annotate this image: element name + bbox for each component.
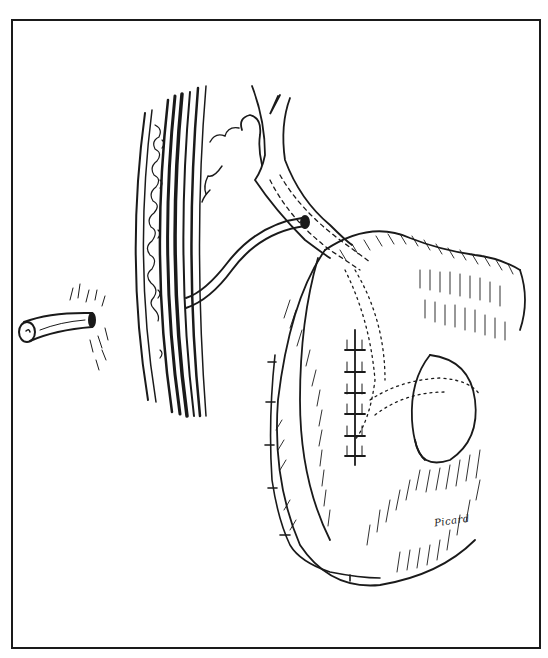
abdominal-wall <box>136 86 206 416</box>
bile-duct <box>202 86 370 270</box>
bowel-loop <box>277 231 525 585</box>
outer-suture-line <box>265 355 380 581</box>
surgical-illustration <box>0 0 548 658</box>
external-drain-tube <box>19 313 95 342</box>
internal-drain-tube <box>186 216 309 308</box>
inner-suture-line <box>345 330 365 465</box>
